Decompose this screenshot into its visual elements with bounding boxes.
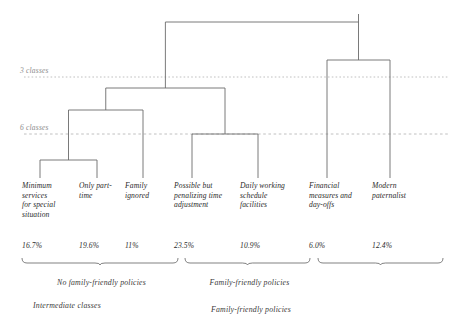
leaf-percentage-7: 12.4% — [372, 241, 392, 250]
leaf-label-7: Modern paternalist — [372, 181, 424, 200]
bottom-caption-1: Intermediate classes — [33, 301, 101, 310]
dendrogram-link-layer — [40, 14, 390, 178]
group-brace-1 — [22, 258, 178, 265]
cut-line-label-1: 3 classes — [20, 66, 49, 75]
dendrogram-figure: 3 classes6 classes Minimum services for … — [0, 0, 465, 320]
leaf-label-3: Family ignored — [125, 181, 177, 200]
cut-line-label-2: 6 classes — [20, 123, 49, 132]
dendrogram-canvas — [0, 0, 465, 320]
leaf-percentage-6: 6.0% — [309, 241, 325, 250]
leaf-label-6: Financial measures and day-offs — [309, 181, 361, 210]
group-caption-1: No family-friendly policies — [57, 278, 146, 287]
leaf-percentage-2: 19.6% — [79, 241, 99, 250]
leaf-percentage-3: 11% — [125, 241, 139, 250]
bottom-caption-2: Family-friendly policies — [211, 305, 291, 314]
group-brace-2 — [185, 258, 310, 265]
group-caption-2: Family-friendly policies — [210, 278, 290, 287]
leaf-percentage-1: 16.7% — [22, 241, 42, 250]
leaf-label-5: Daily working schedule facilities — [240, 181, 292, 210]
leaf-percentage-5: 10.9% — [240, 241, 260, 250]
leaf-percentage-4: 23.5% — [174, 241, 194, 250]
group-brace-layer — [22, 258, 443, 265]
leaf-label-1: Minimum services for special situation — [22, 181, 74, 219]
leaf-label-2: Only part- time — [79, 181, 131, 200]
group-brace-3 — [318, 258, 443, 265]
leaf-label-4: Possible but penalizing time adjustment — [174, 181, 226, 210]
cut-line-layer — [24, 77, 448, 134]
